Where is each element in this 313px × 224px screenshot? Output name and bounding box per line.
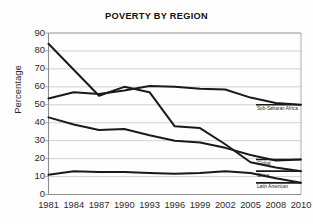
label-leader-lines <box>256 105 301 183</box>
series-label: China <box>257 173 269 178</box>
series-label: Global <box>257 161 271 166</box>
gridlines <box>49 33 302 195</box>
poverty-by-region-chart: POVERTY BY REGION Percentage 01020304050… <box>0 0 313 224</box>
series-label: Sub-Saharan Africa <box>257 106 298 111</box>
series-line <box>49 86 302 105</box>
series-line <box>49 117 302 160</box>
plot-canvas <box>0 0 313 224</box>
series-label: Latin American <box>257 184 288 189</box>
axis-frame <box>45 33 301 195</box>
